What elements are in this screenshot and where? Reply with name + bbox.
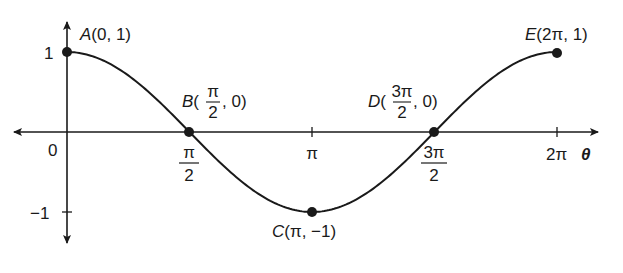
x-tick-label: 0	[48, 141, 57, 160]
point-label-b: B(	[182, 92, 199, 111]
point-label-d: 2	[397, 103, 406, 122]
y-tick-label: −1	[30, 204, 49, 223]
x-tick-label: 2	[184, 166, 193, 185]
x-tick-label: π	[306, 144, 318, 163]
point-e	[552, 48, 562, 58]
y-tick-label: 1	[44, 44, 53, 63]
x-tick-label: 2	[429, 166, 438, 185]
point-label-b: π	[207, 82, 219, 101]
x-tick-label: π	[183, 143, 195, 162]
point-label-d: 3π	[391, 82, 412, 101]
point-label-b: , 0)	[222, 92, 247, 111]
point-label-c: C(π, −1)	[272, 222, 336, 241]
point-label-d: , 0)	[413, 92, 438, 111]
point-c	[307, 207, 317, 217]
point-label-e: E(2π, 1)	[525, 25, 588, 44]
point-label-a: A(0, 1)	[79, 25, 131, 44]
point-b	[184, 127, 194, 137]
x-tick-label: 3π	[423, 143, 444, 162]
x-tick-label: 2π	[546, 145, 567, 164]
point-d	[429, 127, 439, 137]
point-label-d: D(	[368, 92, 386, 111]
cosine-chart: 1 −1 0 π 2 π 3π 2 2π θ A(0, 1) B( π 2 , …	[0, 0, 623, 273]
point-a	[62, 47, 72, 57]
point-label-b: 2	[208, 103, 217, 122]
x-axis-label: θ	[581, 145, 591, 164]
